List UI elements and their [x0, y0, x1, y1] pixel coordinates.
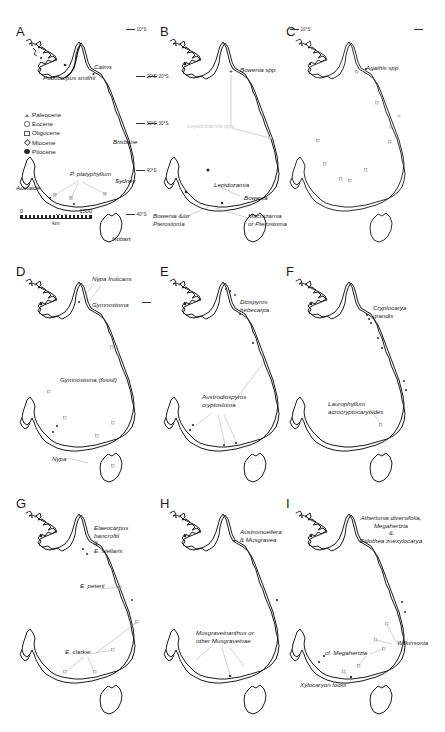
circle-filled-icon	[22, 148, 32, 154]
annotation-nypa: Nypa	[52, 455, 66, 463]
annotation-austromuellera-musgravea: Austromuellera & Musgravea	[240, 528, 282, 543]
annotation-athertonia-megahertzia-eidothea: Athertonia diversifolia, Megahertzia & E…	[346, 514, 436, 544]
legend-item-oligocene: Oligocene	[22, 128, 61, 137]
latitude-tick-20s-B: 20°S	[136, 74, 157, 79]
city-label-sydney: Sydney	[115, 177, 136, 184]
legend-label-oligocene: Oligocene	[32, 129, 60, 136]
annotation-musgraveinanthus-musgraveinae: Musgraveinanthus or other Musgraveinae	[196, 629, 254, 644]
latitude-tick-10s: 10°S	[126, 27, 147, 32]
map-australia-I: Athertonia diversifolia, Megahertzia & E…	[278, 494, 426, 732]
annotation-diospyros-hebecarpa: Diospyros hebecarpa	[240, 298, 269, 313]
annotation-laurophyllum-acrocryptocaryoides: Laurophyllum acrocryptocaryoides	[328, 400, 383, 415]
annotation-xylocaryon-lockii: Xylocaryon lockii	[300, 681, 346, 689]
scale-max-label: 1500	[80, 208, 92, 214]
annotation-wilkinsonia: Wilkinsonia	[397, 639, 428, 647]
scale-unit-label: km	[20, 220, 92, 226]
annotation-bowenia-pterostoma: Bowenia &/or Pterostoma	[153, 212, 190, 227]
figure-canvas: A	[0, 0, 445, 732]
annotation-podocarpus-smithii: Podocarpus smithii	[43, 74, 95, 82]
legend-epochs: Paleocene Eocene Oligocene Miocene Plioc…	[22, 110, 61, 156]
annotation-bowenia: Bowenia	[244, 194, 268, 202]
map-australia-G: Elaeocarpus bancroftii & E. stellaris E.…	[8, 494, 156, 732]
map-australia-F: Cryptocarya grandis Laurophyllum acrocry…	[278, 262, 426, 502]
latitude-tick-30s-B: 30°S	[136, 121, 157, 126]
scale-min-label: 0	[20, 208, 23, 214]
city-label-cairns: Cairns	[94, 63, 112, 70]
annotation-cryptocarya-grandis: Cryptocarya grandis	[373, 304, 406, 319]
legend-label-pliocene: Pliocene	[32, 148, 56, 155]
annotation-lepidozamia: Lepidozamia	[214, 181, 249, 189]
map-australia-C: Agathis spp.	[278, 22, 426, 262]
coastline-svg-F	[278, 262, 426, 502]
annotation-agathis-spp: Agathis spp.	[366, 64, 400, 72]
annotation-austrodiospyros-cryptostoma: Austrodiospyros cryptostoma	[202, 393, 246, 408]
diamond-open-icon	[22, 139, 32, 145]
city-label-adelaide: Adelaide	[16, 184, 40, 191]
square-open-icon	[22, 130, 32, 136]
annotation-nypa-fruticans: Nypa fruticans	[92, 275, 132, 283]
scale-bar-graphic	[20, 215, 92, 219]
panel-F: F	[278, 262, 426, 502]
legend-label-eocene: Eocene	[32, 120, 53, 127]
annotation-e-clarkei: E. clarkei	[65, 648, 90, 656]
city-label-brisbane: Brisbane	[113, 138, 137, 145]
annotation-gymnostoma: Gymnostoma	[92, 301, 129, 309]
latitude-tick-40s: 40°S	[126, 212, 147, 217]
annotation-lepidozamia-spp-faint: Lepidozamia spp.	[187, 122, 236, 130]
legend-item-paleocene: Paleocene	[22, 110, 61, 119]
coastline-svg-C	[278, 22, 426, 262]
scale-bar: 0 1500 km	[20, 208, 92, 226]
latitude-tick-10s-C	[414, 27, 425, 32]
latitude-tick-E	[142, 300, 153, 305]
panel-D: D	[8, 262, 156, 502]
legend-item-eocene: Eocene	[22, 119, 61, 128]
legend-item-miocene: Miocene	[22, 138, 61, 147]
circle-open-icon	[22, 121, 32, 127]
annotation-e-peterii: E. peterii	[80, 582, 104, 590]
triangle-open-icon	[22, 112, 32, 118]
annotation-elaeocarpus-bancroftii-stellaris: Elaeocarpus bancroftii & E. stellaris	[94, 524, 128, 554]
legend-item-pliocene: Pliocene	[22, 147, 61, 156]
panel-A: A	[8, 22, 156, 262]
map-australia-A: Cairns Brisbane Sydney Adelaide Melbourn…	[8, 22, 156, 262]
coastline-svg-G	[8, 494, 156, 732]
latitude-tick-40s-B: 40°S	[136, 168, 157, 173]
legend-label-paleocene: Paleocene	[32, 111, 61, 118]
annotation-gymnostoma-fossil: Gymnostoma (fossil)	[60, 376, 117, 384]
map-australia-D: Nypa fruticans Gymnostoma Gymnostoma (fo…	[8, 262, 156, 502]
annotation-bowenia-spp: Bowenia spp.	[240, 66, 277, 74]
panel-I: I	[278, 494, 426, 732]
legend-label-miocene: Miocene	[32, 139, 55, 146]
annotation-cf-megahertzia: cf. Megahertzia	[325, 649, 367, 657]
panel-C: C	[278, 22, 426, 262]
annotation-p-platyphyllum: P. platyphyllum	[70, 170, 111, 178]
panel-G: G	[8, 494, 156, 732]
city-label-hobart: Hobart	[112, 235, 131, 242]
